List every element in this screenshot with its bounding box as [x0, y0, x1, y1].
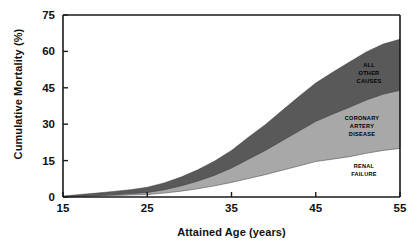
x-tick-label: 45 — [309, 202, 322, 214]
x-tick-label: 55 — [394, 202, 407, 214]
band-label-coronary-artery-disease: DISEASE — [349, 131, 375, 137]
chart-canvas: 01530456075 1525354555 ALLOTHERCAUSESCOR… — [0, 0, 413, 249]
x-axis-title: Attained Age (years) — [63, 226, 400, 238]
band-label-all-other-causes: CAUSES — [357, 78, 382, 84]
band-label-all-other-causes: OTHER — [359, 70, 380, 76]
band-label-all-other-causes: ALL — [363, 62, 375, 68]
y-tick-label: 60 — [42, 45, 55, 57]
band-label-renal-failure: FAILURE — [351, 171, 377, 177]
x-tick-label: 15 — [57, 202, 70, 214]
y-tick-label: 45 — [42, 82, 55, 94]
x-tick-label: 35 — [225, 202, 238, 214]
y-axis-title: Cumulative Mortality (%) — [12, 14, 24, 174]
band-label-coronary-artery-disease: ARTERY — [350, 123, 374, 129]
y-tick-label: 30 — [42, 118, 55, 130]
mortality-area-chart: 01530456075 1525354555 ALLOTHERCAUSESCOR… — [0, 0, 413, 249]
x-tick-label: 25 — [141, 202, 154, 214]
band-label-renal-failure: RENAL — [354, 163, 375, 169]
y-tick-label: 0 — [49, 191, 55, 203]
band-label-coronary-artery-disease: CORONARY — [345, 115, 379, 121]
y-tick-label: 15 — [42, 155, 55, 167]
y-tick-label: 75 — [42, 9, 55, 21]
